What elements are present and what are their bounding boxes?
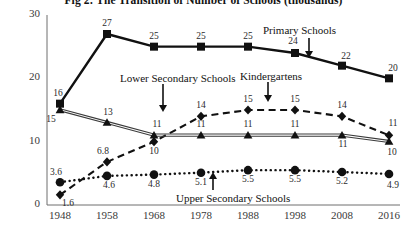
data-point-marker — [338, 62, 346, 70]
data-point-value-label: 11 — [185, 119, 217, 129]
data-point-value-label: 24 — [277, 36, 309, 46]
data-point-value-label: 4.6 — [93, 180, 125, 190]
data-point-value-label: 25 — [185, 31, 217, 41]
data-point-marker — [56, 100, 64, 108]
data-point-value-label: 11 — [327, 139, 359, 149]
data-point-value-label: 4.9 — [377, 180, 407, 190]
data-point-value-label: 4.8 — [138, 179, 170, 189]
data-point-marker — [244, 105, 252, 114]
x-axis-tick-label: 2016 — [359, 209, 407, 221]
y-axis-tick-label: 10 — [8, 134, 40, 146]
data-point-value-label: 6.8 — [87, 146, 119, 156]
data-point-marker — [197, 131, 206, 139]
data-point-value-label: 5.2 — [326, 176, 358, 186]
data-point-value-label: 16 — [42, 88, 74, 98]
data-point-marker — [338, 112, 346, 121]
data-point-marker — [244, 43, 252, 51]
data-point-marker — [56, 178, 65, 187]
data-point-marker — [150, 131, 159, 139]
y-axis-tick-label: 0 — [8, 197, 40, 209]
annotation-upper-secondary-schools: Upper Secondary Schools — [176, 192, 290, 204]
data-point-value-label: 3.6 — [40, 167, 72, 177]
data-point-value-label: 11 — [377, 118, 407, 128]
data-point-value-label: 1.6 — [52, 198, 84, 208]
annotation-arrows — [159, 38, 313, 190]
data-point-marker — [385, 74, 393, 82]
data-point-value-label: 14 — [185, 100, 217, 110]
data-point-marker — [103, 30, 111, 38]
data-point-value-label: 5.5 — [279, 174, 311, 184]
data-point-marker — [338, 168, 347, 177]
figure-container: Fig 2: The Transition of Number of Schoo… — [0, 0, 407, 227]
data-point-marker — [244, 131, 253, 139]
data-point-value-label: 10 — [376, 147, 407, 157]
y-axis-tick-label: 30 — [8, 7, 40, 19]
data-point-value-label: 27 — [91, 18, 123, 28]
data-point-value-label: 20 — [377, 63, 407, 73]
series-primary-schools — [56, 30, 393, 108]
data-point-value-label: 11 — [141, 119, 173, 129]
data-point-marker — [291, 105, 299, 114]
data-point-marker — [197, 43, 205, 51]
data-point-value-label: 15 — [35, 114, 67, 124]
data-point-marker — [385, 137, 394, 145]
y-axis-tick-label: 20 — [8, 70, 40, 82]
annotation-arrow-head — [264, 95, 272, 102]
data-point-marker — [150, 43, 158, 51]
annotation-lower-secondary-schools: Lower Secondary Schools — [120, 72, 235, 84]
annotation-arrow-head — [159, 105, 167, 112]
data-point-value-label: 25 — [138, 31, 170, 41]
data-point-value-label: 25 — [232, 31, 264, 41]
annotation-primary-schools: Primary Schools — [263, 24, 336, 36]
data-point-marker — [103, 157, 111, 166]
data-point-value-label: 5.1 — [185, 177, 217, 187]
data-point-marker — [291, 131, 300, 139]
data-point-value-label: 11 — [279, 119, 311, 129]
data-point-value-label: 13 — [92, 107, 124, 117]
data-point-value-label: 15 — [279, 94, 311, 104]
data-point-value-label: 5.5 — [232, 174, 264, 184]
data-point-marker — [291, 49, 299, 57]
data-point-value-label: 11 — [232, 119, 264, 129]
data-point-value-label: 10 — [138, 146, 170, 156]
data-point-value-label: 22 — [330, 51, 362, 61]
data-point-marker — [385, 170, 394, 179]
data-point-value-label: 15 — [232, 94, 264, 104]
annotation-kindergartens: Kindergartens — [240, 70, 302, 82]
data-point-value-label: 14 — [326, 100, 358, 110]
